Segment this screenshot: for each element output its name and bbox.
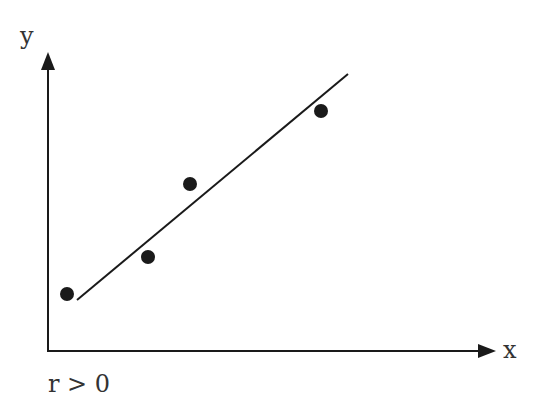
y-axis-label: y [19,22,34,50]
x-axis-arrow-icon [478,344,496,358]
axes [41,52,496,358]
trend-line [77,74,348,300]
correlation-annotation: r > 0 [48,370,110,398]
data-point [141,250,155,264]
data-point [60,287,74,301]
data-point [183,177,197,191]
scatter-diagram: y x r > 0 [0,0,550,416]
x-axis-label: x [503,336,517,364]
y-axis-arrow-icon [41,52,55,70]
data-point [314,104,328,118]
